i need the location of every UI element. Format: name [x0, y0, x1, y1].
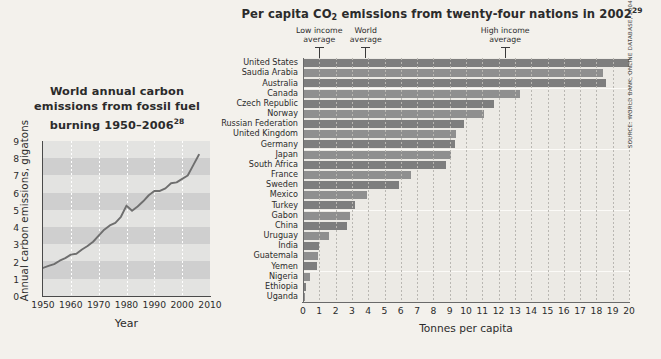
category-label-united-kingdom: United Kingdom — [178, 129, 298, 139]
bar-chart-panel: Per capita CO2 emissions from twenty-fou… — [232, 0, 661, 359]
bar-title-footnote: 29 — [632, 6, 643, 15]
grid-line-vertical — [319, 58, 320, 302]
grid-line-vertical — [401, 58, 402, 302]
bar-chart-plot-area — [303, 58, 629, 302]
category-label-saudia-arabia: Saudia Arabia — [178, 68, 298, 78]
y-tick-5: 5 — [3, 205, 19, 216]
grid-line-vertical — [613, 58, 614, 302]
y-tick-7: 7 — [3, 170, 19, 181]
line-chart-y-axis — [42, 141, 43, 297]
category-label-sweden: Sweden — [178, 180, 298, 190]
category-label-gabon: Gabon — [178, 211, 298, 221]
grid-line-vertical — [564, 58, 565, 302]
grid-line-vertical — [499, 58, 500, 302]
grid-line-vertical — [596, 58, 597, 302]
bar-chart-title: Per capita CO2 emissions from twenty-fou… — [232, 6, 652, 21]
bar-australia — [303, 79, 606, 87]
bar-yemen — [303, 262, 317, 270]
grid-line-vertical — [433, 58, 434, 302]
grid-line-vertical — [482, 58, 483, 302]
y-tick-1: 1 — [3, 274, 19, 285]
marker-label-world-average: Worldaverage — [326, 26, 406, 44]
x-tick-1960: 1960 — [56, 299, 86, 310]
bar-chart-baseline — [303, 58, 304, 302]
y-tick-2: 2 — [3, 257, 19, 268]
category-label-india: India — [178, 241, 298, 251]
x-tick-20: 20 — [617, 305, 641, 316]
line-chart-x-axis-label: Year — [43, 317, 210, 330]
y-tick-4: 4 — [3, 222, 19, 233]
line-title-line3: burning 1950–2006 — [50, 119, 174, 132]
grid-line-vertical — [580, 58, 581, 302]
line-chart-y-axis-label: Annual carbon emissions, gigatons — [19, 113, 30, 308]
bar-title-part2: emissions from twenty-four nations in 20… — [337, 7, 632, 21]
y-tick-0: 0 — [3, 291, 19, 302]
category-label-japan: Japan — [178, 150, 298, 160]
bar-title-subscript: 2 — [332, 13, 338, 22]
figure-page: World annual carbon emissions from fossi… — [0, 0, 661, 359]
category-label-yemen: Yemen — [178, 262, 298, 272]
y-tick-9: 9 — [3, 136, 19, 147]
bar-chart-x-axis-label: Tonnes per capita — [303, 322, 629, 334]
bar-title-part1: Per capita CO — [241, 7, 331, 21]
grid-line-vertical — [515, 58, 516, 302]
grid-line-vertical — [548, 58, 549, 302]
category-label-uganda: Uganda — [178, 292, 298, 302]
line-title-line1: World annual carbon — [50, 85, 184, 98]
x-tick-1970: 1970 — [84, 299, 114, 310]
category-label-china: China — [178, 221, 298, 231]
bar-turkey — [303, 201, 355, 209]
bar-gabon — [303, 212, 350, 220]
category-label-nigeria: Nigeria — [178, 272, 298, 282]
y-tick-6: 6 — [3, 188, 19, 199]
bar-saudia-arabia — [303, 69, 603, 77]
x-tick-1990: 1990 — [139, 299, 169, 310]
line-title-line2: emissions from fossil fuel — [34, 100, 200, 113]
bar-norway — [303, 110, 484, 118]
source-note: SOURCE: WORLD BANK, ONLINE DATABASE, 200… — [627, 0, 633, 148]
grid-line-vertical — [417, 58, 418, 302]
category-label-russian-federation: Russian Federation — [178, 119, 298, 129]
grid-line-vertical — [352, 58, 353, 302]
x-tick-1950: 1950 — [28, 299, 58, 310]
bar-south-africa — [303, 161, 446, 169]
bar-chart-x-axis — [302, 302, 630, 303]
y-tick-8: 8 — [3, 153, 19, 164]
grid-line-vertical — [450, 58, 451, 302]
grid-line-vertical — [368, 58, 369, 302]
bar-japan — [303, 151, 451, 159]
category-label-norway: Norway — [178, 109, 298, 119]
bar-germany — [303, 140, 455, 148]
category-label-canada: Canada — [178, 89, 298, 99]
category-label-ethiopia: Ethiopia — [178, 282, 298, 292]
category-label-france: France — [178, 170, 298, 180]
bar-uruguay — [303, 232, 329, 240]
y-tick-3: 3 — [3, 239, 19, 250]
marker-label-high-income-average: High incomeaverage — [465, 26, 545, 44]
x-tick-1980: 1980 — [112, 299, 142, 310]
grid-line-vertical — [336, 58, 337, 302]
bar-guatemala — [303, 252, 318, 260]
grid-line-vertical — [385, 58, 386, 302]
category-label-turkey: Turkey — [178, 201, 298, 211]
bar-china — [303, 222, 347, 230]
category-label-guatemala: Guatemala — [178, 251, 298, 261]
category-label-uruguay: Uruguay — [178, 231, 298, 241]
category-label-czech-republic: Czech Republic — [178, 99, 298, 109]
grid-line-vertical — [466, 58, 467, 302]
category-label-united-states: United States — [178, 58, 298, 68]
category-label-australia: Australia — [178, 79, 298, 89]
bar-india — [303, 242, 319, 250]
grid-line-vertical — [531, 58, 532, 302]
category-label-germany: Germany — [178, 140, 298, 150]
category-label-mexico: Mexico — [178, 190, 298, 200]
category-label-south-africa: South Africa — [178, 160, 298, 170]
